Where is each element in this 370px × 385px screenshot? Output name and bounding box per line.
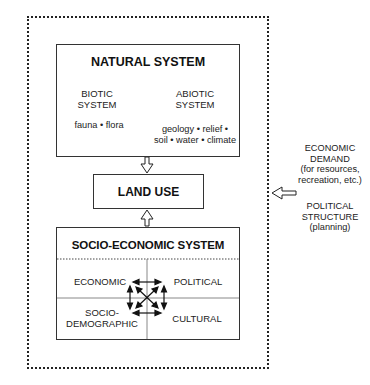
economic-demand-label: ECONOMIC DEMAND (for resources, recreati… — [290, 143, 370, 185]
land-use-title: LAND USE — [94, 185, 203, 199]
political-structure-label: POLITICAL STRUCTURE (planning) — [290, 201, 370, 233]
abiotic-components: geology • relief • soil • water • climat… — [149, 124, 241, 145]
biotic-components: fauna • flora — [62, 120, 136, 131]
quadrant-socio-demographic: SOCIO- DEMOGRAPHIC — [62, 308, 142, 329]
natural-to-landuse-arrow-icon — [141, 157, 153, 173]
quadrant-economic: ECONOMIC — [72, 277, 128, 288]
abiotic-system-label: ABIOTIC SYSTEM — [164, 89, 226, 110]
external-influence-arrow-icon — [272, 187, 296, 199]
quadrant-political: POLITICAL — [168, 277, 228, 288]
socio-to-landuse-arrow-icon — [141, 210, 153, 226]
socio-economic-system-title: SOCIO-ECONOMIC SYSTEM — [57, 239, 239, 251]
natural-system-title: NATURAL SYSTEM — [57, 55, 239, 69]
land-use-box: LAND USE — [93, 174, 204, 209]
diagram-canvas: NATURAL SYSTEM BIOTIC SYSTEM ABIOTIC SYS… — [0, 0, 370, 385]
quadrant-cultural: CULTURAL — [164, 314, 230, 325]
biotic-system-label: BIOTIC SYSTEM — [68, 89, 126, 110]
